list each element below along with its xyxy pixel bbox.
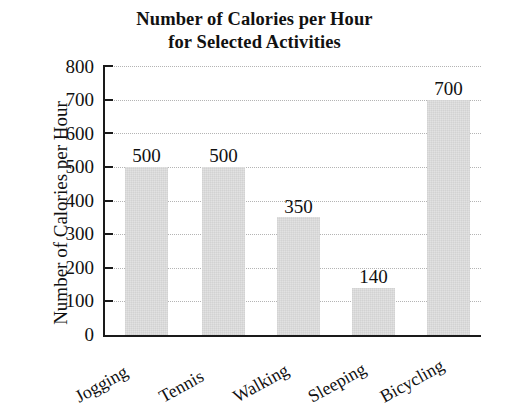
y-tick-label-200: 200 — [48, 258, 94, 277]
x-tick-label-walking: Walking — [230, 361, 292, 406]
x-tick-label-sleeping: Sleeping — [305, 359, 369, 405]
y-tick-mark-600 — [104, 132, 113, 134]
plot-area: 500 500 350 140 700 — [103, 66, 480, 335]
bar-value-walking: 350 — [265, 197, 332, 216]
bar-value-bicycling: 700 — [415, 79, 482, 98]
y-axis-line — [103, 65, 105, 336]
y-tick-mark-100 — [104, 300, 113, 302]
y-tick-label-500: 500 — [48, 157, 94, 176]
y-tick-mark-300 — [104, 233, 113, 235]
chart-title: Number of Calories per Hour for Selected… — [0, 8, 509, 54]
y-tick-label-400: 400 — [48, 191, 94, 210]
bar-value-tennis: 500 — [190, 146, 257, 165]
bar-value-sleeping: 140 — [340, 267, 407, 286]
gridline-800 — [104, 66, 481, 68]
y-tick-label-0: 0 — [48, 325, 94, 344]
y-tick-mark-400 — [104, 200, 113, 202]
gridline-700 — [104, 100, 481, 102]
bar-walking — [277, 217, 320, 335]
x-tick-label-jogging: Jogging — [72, 362, 131, 405]
x-axis-line — [103, 335, 481, 337]
y-tick-label-800: 800 — [48, 57, 94, 76]
bar-tennis — [202, 167, 245, 335]
y-tick-label-700: 700 — [48, 90, 94, 109]
y-tick-mark-200 — [104, 267, 113, 269]
bar-bicycling — [427, 100, 470, 335]
y-tick-mark-700 — [104, 99, 113, 101]
y-axis-title: Number of Calories per Hour — [50, 73, 72, 353]
x-tick-label-tennis: Tennis — [156, 367, 206, 406]
bar-chart-figure: Number of Calories per Hour for Selected… — [0, 0, 509, 408]
chart-title-line-1: Number of Calories per Hour — [0, 8, 509, 31]
gridline-600 — [104, 133, 481, 135]
y-tick-label-100: 100 — [48, 291, 94, 310]
x-tick-label-bicycling: Bicycling — [377, 356, 447, 406]
y-tick-label-600: 600 — [48, 124, 94, 143]
y-tick-label-300: 300 — [48, 224, 94, 243]
y-tick-mark-500 — [104, 166, 113, 168]
bar-value-jogging: 500 — [113, 146, 180, 165]
bar-sleeping — [352, 288, 395, 335]
bar-jogging — [125, 167, 168, 335]
y-tick-mark-800 — [104, 65, 113, 67]
chart-title-line-2: for Selected Activities — [0, 31, 509, 54]
